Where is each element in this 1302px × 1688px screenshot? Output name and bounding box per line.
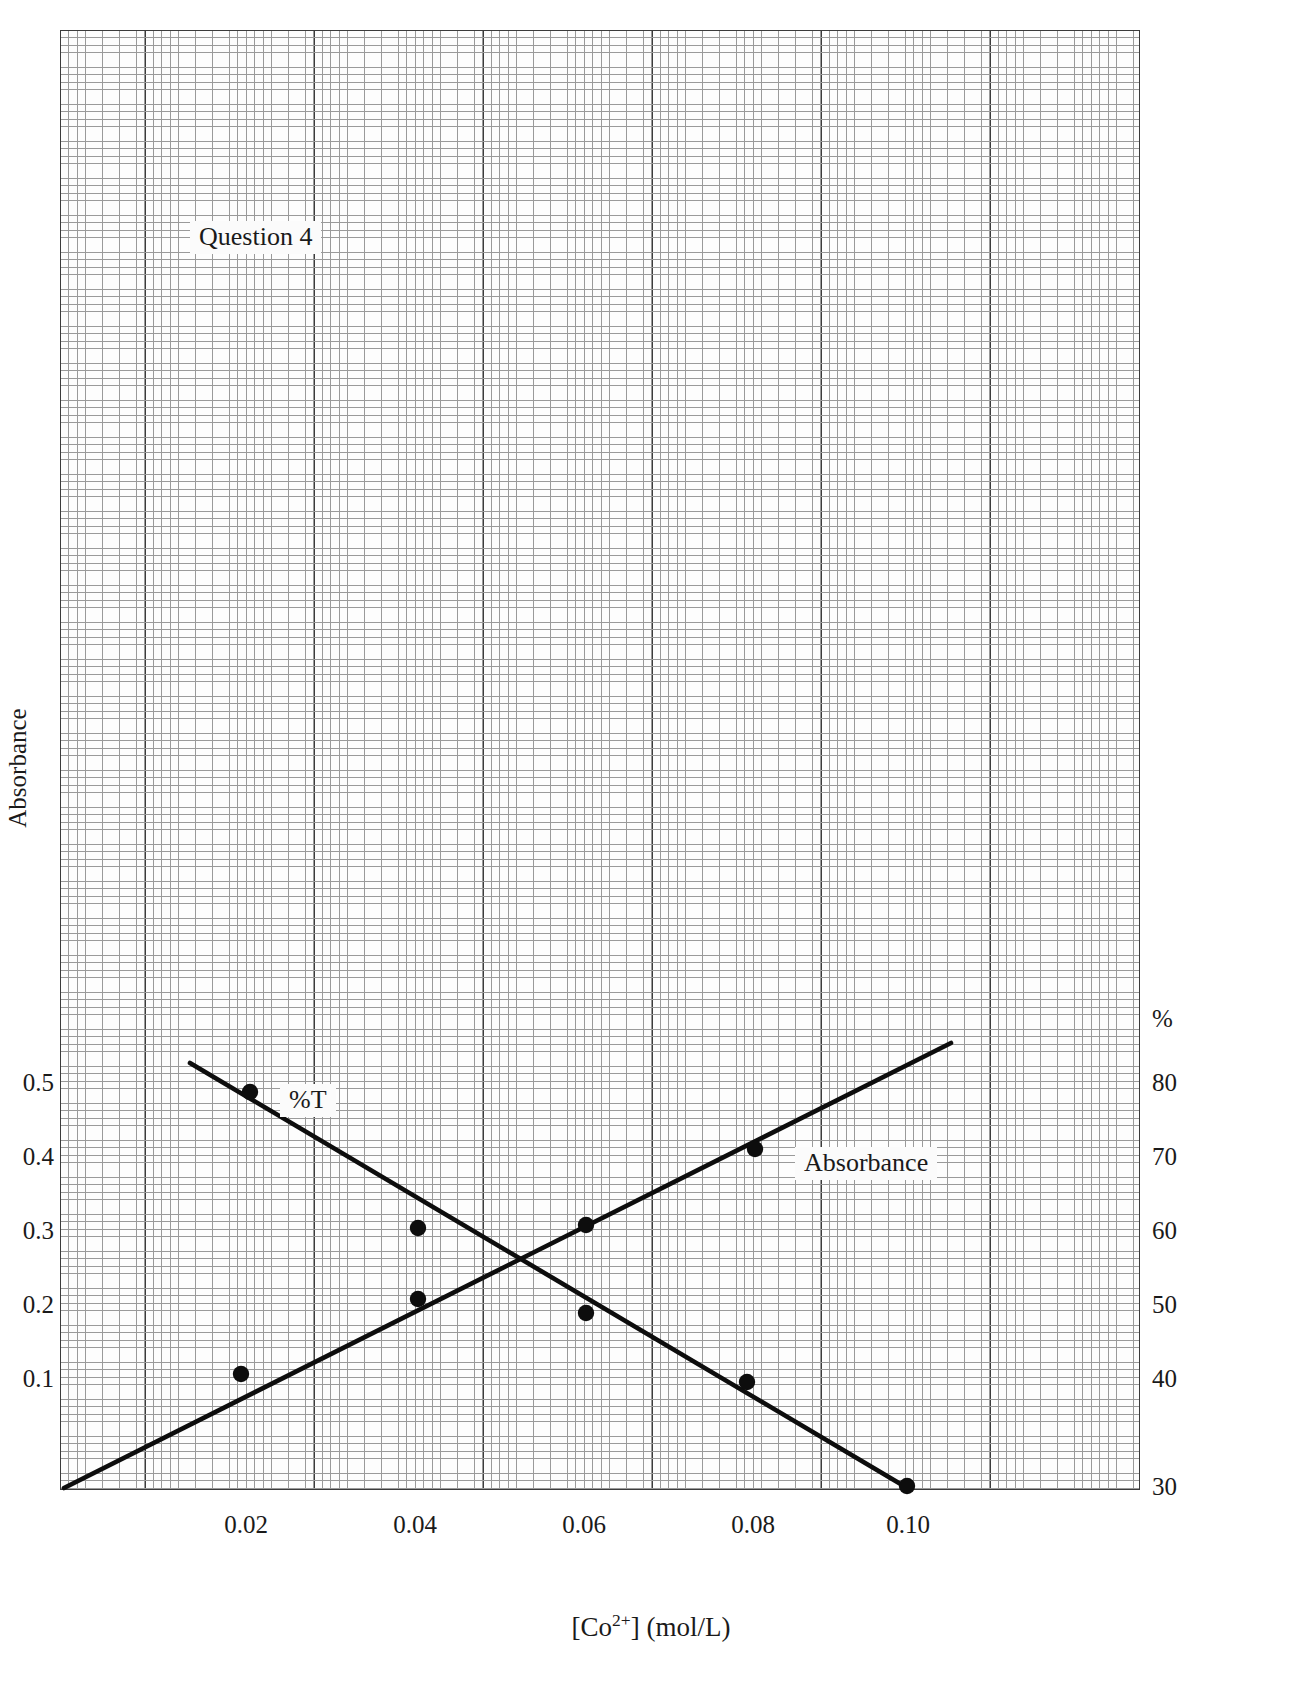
x-axis-tick: 0.04 — [355, 1512, 475, 1537]
x-axis-tick: 0.02 — [186, 1512, 306, 1537]
y-axis-left-tick: 0.4 — [23, 1144, 54, 1169]
y-axis-right-tick: 30 — [1152, 1474, 1177, 1499]
graph-figure: 0.1 0.2 0.3 0.4 0.5 % 80 70 60 50 40 30 … — [0, 0, 1302, 1688]
x-axis-title-species: [Co — [572, 1612, 613, 1642]
x-axis-tick: 0.08 — [693, 1512, 813, 1537]
x-axis-title-units: ] (mol/L) — [631, 1612, 731, 1642]
y-axis-left-tick: 0.3 — [23, 1218, 54, 1243]
x-axis-title-charge: 2+ — [612, 1610, 631, 1630]
y-axis-left-tick: 0.2 — [23, 1292, 54, 1317]
y-axis-right-tick: 50 — [1152, 1292, 1177, 1317]
x-axis-tick: 0.10 — [848, 1512, 968, 1537]
y-axis-right-tick: 70 — [1152, 1144, 1177, 1169]
y-axis-right-unit-label: % — [1152, 1006, 1173, 1031]
absorbance-series-label: Absorbance — [795, 1147, 937, 1180]
y-axis-right-tick: 60 — [1152, 1218, 1177, 1243]
question-label: Question 4 — [190, 221, 321, 254]
y-axis-left-tick: 0.1 — [23, 1366, 54, 1391]
x-axis-tick: 0.06 — [524, 1512, 644, 1537]
y-axis-left-tick: 0.5 — [23, 1070, 54, 1095]
y-axis-right-tick: 80 — [1152, 1070, 1177, 1095]
x-axis-title: [Co2+] (mol/L) — [451, 1610, 851, 1643]
y-axis-title: Absorbance — [4, 698, 32, 838]
y-axis-right-tick: 40 — [1152, 1366, 1177, 1391]
pct-t-series-label: %T — [280, 1084, 336, 1117]
